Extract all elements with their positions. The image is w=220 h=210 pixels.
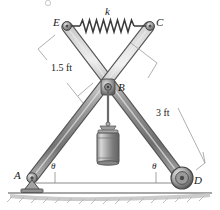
label-dim-full: 3 ft [156,108,170,118]
mechanics-figure: E C k B 1.5 ft 3 ft A D θ θ [0,0,220,210]
cylinder-weight-icon [97,90,119,165]
label-angle-right: θ [152,162,156,171]
label-point-c: C [156,17,163,28]
pin-joint-C [146,22,155,31]
ground-hatch-icon [7,193,212,204]
label-point-a: A [14,170,21,181]
roller-support-icon [171,167,193,189]
pin-joint-E [63,22,72,31]
label-spring-k: k [105,6,110,17]
label-point-e: E [53,17,60,28]
top-registration-mark [45,0,50,5]
label-angle-left: θ [51,162,55,171]
spring-icon [68,20,148,32]
label-point-d: D [194,175,202,186]
label-dim-half: 1.5 ft [51,63,72,73]
label-point-b: B [118,82,125,93]
figure-canvas [0,0,220,210]
